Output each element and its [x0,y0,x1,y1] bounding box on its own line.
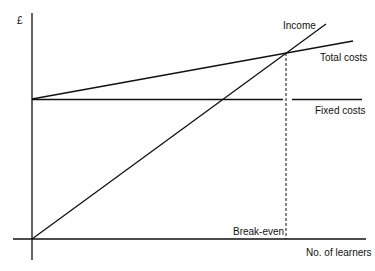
x-axis-label: No. of learners [306,247,372,258]
total-costs-line [32,41,353,99]
break-even-label: Break-even [233,226,284,237]
income-label: Income [283,20,316,31]
fixed-costs-label: Fixed costs [315,105,366,116]
income-line [32,24,326,239]
y-axis-label: £ [17,15,23,26]
total-costs-label: Total costs [320,52,367,63]
break-even-chart: £ Income Total costs Fixed costs Break-e… [0,0,375,271]
